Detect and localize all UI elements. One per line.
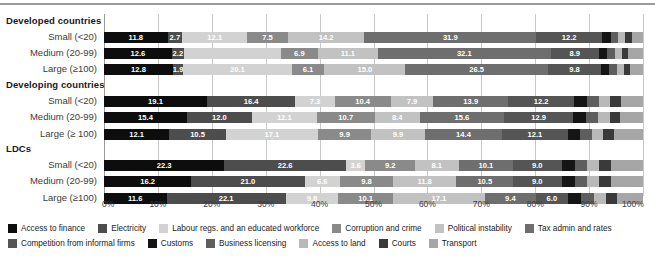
x-axis: 0%10%20%30%40%50%60%70%80%90%100% [104, 199, 643, 213]
bar-segment: 14.4 [425, 129, 503, 140]
x-tick-label: 100% [622, 199, 644, 209]
bar-segment [562, 160, 575, 171]
table-row: 11.82.712.17.514.231.912.2 [104, 32, 643, 43]
bar-segment: 16.4 [207, 96, 295, 107]
bar-segment [610, 96, 621, 107]
bar-segment: 10.1 [459, 160, 513, 171]
bar-segment [573, 112, 586, 123]
bar-segment: 8.9 [551, 48, 599, 59]
bar-segment [587, 96, 599, 107]
bar-segment: 21.0 [191, 176, 304, 187]
legend-label: Access to finance [21, 224, 85, 233]
bar-segment [632, 32, 643, 43]
bar-segment: 12.0 [187, 112, 252, 123]
bar-segment: 8.1 [415, 160, 459, 171]
category-label: Small (<20) [48, 31, 97, 42]
bar-segment [611, 176, 643, 187]
bar-segment [599, 160, 610, 171]
bar-segment: 15.6 [420, 112, 504, 123]
bar-segment: 22.6 [224, 160, 346, 171]
x-tick-label: 0% [102, 199, 114, 209]
bar-segment [628, 48, 643, 59]
bar-segment [621, 96, 643, 107]
bar-segment: 7.3 [295, 96, 334, 107]
legend-item[interactable]: Access to finance [8, 224, 85, 233]
bar-segment [599, 48, 608, 59]
legend-item[interactable]: Business licensing [206, 239, 286, 248]
legend-label: Business licensing [219, 239, 286, 248]
category-label: Large (≥ 100) [40, 128, 97, 139]
bar-segment: 13.9 [433, 96, 508, 107]
table-row: 19.116.47.310.47.913.912.2 [104, 96, 643, 107]
legend-item[interactable]: Electricity [98, 224, 146, 233]
bar-segment: 6.6 [305, 176, 341, 187]
bar-segment: 14.2 [288, 32, 365, 43]
legend-swatch-icon [159, 224, 168, 233]
category-label: Medium (20-99) [30, 175, 97, 186]
bar-segment: 12.8 [104, 64, 173, 75]
legend-swatch-icon [429, 239, 438, 248]
bar-segment: 9.8 [548, 64, 601, 75]
legend-item[interactable]: Customs [148, 239, 193, 248]
legend-label: Political instability [448, 224, 512, 233]
bar-segment [587, 160, 599, 171]
legend-item[interactable]: Competition from informal firms [8, 239, 135, 248]
legend-label: Competition from informal firms [21, 239, 135, 248]
bar-segment: 2.2 [172, 48, 184, 59]
legend-item[interactable]: Corruption and crime [332, 224, 421, 233]
bar-segment: 7.9 [391, 96, 434, 107]
bar-segment [617, 64, 624, 75]
bar-segment: 9.9 [371, 129, 424, 140]
bar-segment: 12.9 [504, 112, 574, 123]
legend-item[interactable]: Tax admin and rates [525, 224, 612, 233]
legend-item[interactable]: Access to land [299, 239, 365, 248]
table-row: 12.110.517.19.99.914.412.1 [104, 129, 643, 140]
legend-swatch-icon [8, 224, 17, 233]
bar-segment: 11.8 [393, 176, 457, 187]
legend-label: Access to land [312, 239, 365, 248]
legend-swatch-icon [435, 224, 444, 233]
bar-segment [575, 160, 587, 171]
bar-segment [580, 129, 592, 140]
x-tick-label: 60% [419, 199, 436, 209]
legend-item[interactable]: Labour regs. and an educated workforce [159, 224, 319, 233]
group-header: LDCs [6, 143, 31, 154]
table-row: 12.81.920.16.115.026.59.8 [104, 64, 643, 75]
bar-segment: 12.1 [182, 32, 247, 43]
bar-segment: 9.0 [513, 160, 562, 171]
bar-segment [568, 129, 580, 140]
x-tick-label: 40% [311, 199, 328, 209]
bar-segment: 12.1 [104, 129, 169, 140]
legend-item[interactable]: Political instability [435, 224, 512, 233]
bar-segment [574, 96, 587, 107]
table-row: 12.62.26.911.132.18.9 [104, 48, 643, 59]
bar-segment: 10.4 [335, 96, 391, 107]
bar-segment [184, 48, 281, 59]
x-tick-label: 70% [473, 199, 490, 209]
stacked-bar-chart: Developed countriesSmall (<20)Medium (20… [0, 0, 655, 264]
plot-area: 11.82.712.17.514.231.912.212.62.26.911.1… [104, 14, 643, 196]
bar-segment: 11.1 [318, 48, 378, 59]
table-row: 22.322.63.69.28.110.19.0 [104, 160, 643, 171]
legend-item[interactable]: Transport [429, 239, 477, 248]
category-label: Large (≥100) [43, 192, 97, 203]
legend-label: Corruption and crime [345, 224, 421, 233]
bar-segment: 10.7 [317, 112, 375, 123]
x-tick-label: 10% [149, 199, 166, 209]
bar-segment: 1.9 [173, 64, 183, 75]
legend-label: Courts [392, 239, 416, 248]
bar-segment [610, 112, 621, 123]
bar-segment [607, 48, 615, 59]
legend-swatch-icon [379, 239, 388, 248]
bar-segment: 16.2 [104, 176, 191, 187]
bar-segment: 22.3 [104, 160, 224, 171]
bar-segment [611, 160, 643, 171]
bar-segment [587, 176, 599, 187]
bar-segment: 12.2 [536, 32, 602, 43]
legend-item[interactable]: Courts [379, 239, 416, 248]
legend-row-2: Competition from informal firmsCustomsBu… [8, 239, 653, 248]
bar-segment: 8.4 [375, 112, 420, 123]
bar-segment: 10.5 [169, 129, 226, 140]
bar-segment: 9.8 [340, 176, 393, 187]
x-tick-label: 90% [581, 199, 598, 209]
